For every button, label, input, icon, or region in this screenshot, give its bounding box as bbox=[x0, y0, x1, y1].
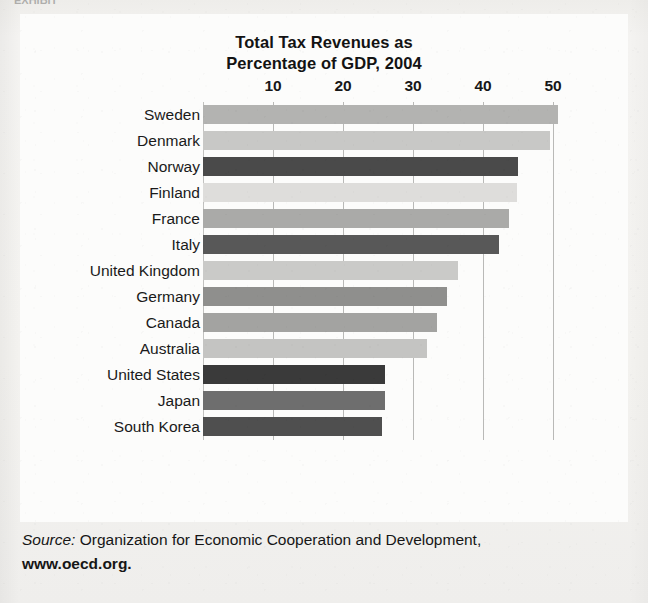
bar-row: Japan bbox=[20, 388, 628, 414]
bar-australia bbox=[203, 339, 427, 358]
bar-row: France bbox=[20, 206, 628, 232]
bar-row: United States bbox=[20, 362, 628, 388]
bar-row: Australia bbox=[20, 336, 628, 362]
bar-label-france: France bbox=[0, 207, 200, 231]
bar-label-germany: Germany bbox=[0, 285, 200, 309]
x-axis-tick-40: 40 bbox=[474, 77, 491, 95]
x-axis-tick-30: 30 bbox=[404, 77, 421, 95]
bar-japan bbox=[203, 391, 385, 410]
source-note: Source: Organization for Economic Cooper… bbox=[22, 528, 628, 575]
chart-title-line-1: Total Tax Revenues as bbox=[235, 33, 413, 51]
bar-label-canada: Canada bbox=[0, 311, 200, 335]
bar-label-south-korea: South Korea bbox=[0, 415, 200, 439]
bar-row: Sweden bbox=[20, 102, 628, 128]
bar-label-united-states: United States bbox=[0, 363, 200, 387]
bar-row: Finland bbox=[20, 180, 628, 206]
bar-label-japan: Japan bbox=[0, 389, 200, 413]
bar-label-australia: Australia bbox=[0, 337, 200, 361]
bar-sweden bbox=[203, 105, 558, 124]
bar-label-finland: Finland bbox=[0, 181, 200, 205]
x-axis-tick-labels: 1020304050 bbox=[20, 77, 628, 99]
bar-row: Germany bbox=[20, 284, 628, 310]
source-url: www.oecd.org. bbox=[22, 552, 628, 575]
bar-united-kingdom bbox=[203, 261, 458, 280]
source-label: Source: bbox=[22, 531, 75, 548]
plot-area: SwedenDenmarkNorwayFinlandFranceItalyUni… bbox=[20, 102, 628, 440]
bar-label-sweden: Sweden bbox=[0, 103, 200, 127]
bar-germany bbox=[203, 287, 447, 306]
bar-row: Norway bbox=[20, 154, 628, 180]
page-top-cropped-text: EXHIBIT bbox=[14, 0, 164, 7]
bar-norway bbox=[203, 157, 518, 176]
bar-south-korea bbox=[203, 417, 382, 436]
bar-row: United Kingdom bbox=[20, 258, 628, 284]
chart-title: Total Tax Revenues as Percentage of GDP,… bbox=[20, 32, 628, 74]
x-axis-tick-50: 50 bbox=[544, 77, 561, 95]
bar-label-italy: Italy bbox=[0, 233, 200, 257]
bar-label-denmark: Denmark bbox=[0, 129, 200, 153]
bar-france bbox=[203, 209, 509, 228]
bar-finland bbox=[203, 183, 517, 202]
bar-label-united-kingdom: United Kingdom bbox=[0, 259, 200, 283]
figure-page: EXHIBIT Total Tax Revenues as Percentage… bbox=[0, 0, 648, 603]
chart-panel: Total Tax Revenues as Percentage of GDP,… bbox=[20, 14, 628, 522]
bar-row: Canada bbox=[20, 310, 628, 336]
bar-italy bbox=[203, 235, 499, 254]
bar-united-states bbox=[203, 365, 385, 384]
bar-label-norway: Norway bbox=[0, 155, 200, 179]
bar-canada bbox=[203, 313, 437, 332]
chart-title-line-2: Percentage of GDP, 2004 bbox=[20, 53, 628, 74]
bar-denmark bbox=[203, 131, 550, 150]
bar-row: South Korea bbox=[20, 414, 628, 440]
x-axis-tick-10: 10 bbox=[264, 77, 281, 95]
bar-row: Denmark bbox=[20, 128, 628, 154]
bar-row: Italy bbox=[20, 232, 628, 258]
x-axis-tick-20: 20 bbox=[334, 77, 351, 95]
source-text: Organization for Economic Cooperation an… bbox=[75, 531, 481, 548]
